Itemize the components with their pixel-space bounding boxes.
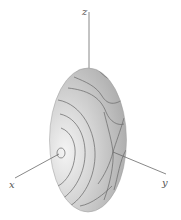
z-axis-label: z [81,6,88,17]
ellipsoid-surface [50,68,127,212]
y-axis-label: y [161,177,168,188]
ellipsoid-figure: z x y [0,0,181,220]
x-axis-label: x [9,179,15,190]
